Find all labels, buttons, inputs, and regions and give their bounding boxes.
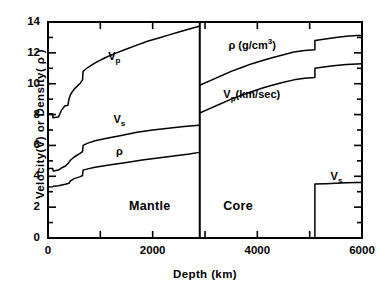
curve-vs-inner-core [315, 182, 362, 238]
x-tick-label: 0 [28, 244, 68, 256]
y-tick-label: 6 [18, 138, 40, 150]
curve-vp-mantle [48, 26, 199, 117]
vs-mantle-label: Vs [113, 113, 125, 128]
y-tick-label: 4 [18, 169, 40, 181]
y-tick-label: 8 [18, 108, 40, 120]
core-region-label: Core [223, 199, 253, 213]
data-curves [48, 26, 362, 238]
y-tick-label: 2 [18, 200, 40, 212]
seismic-velocity-density-figure: Velocity(V) or Density( ρ ) Depth (km) 0… [0, 0, 379, 288]
rho-core-label: ρ (g/cm3) [229, 37, 276, 51]
rho-mantle-label: ρ [116, 145, 123, 157]
curve-rho-mantle [48, 152, 199, 187]
y-tick-label: 0 [18, 231, 40, 243]
curve-rho-core [200, 35, 362, 85]
x-tick-label: 6000 [342, 244, 379, 256]
y-tick-label: 10 [18, 77, 40, 89]
x-tick-label: 2000 [133, 244, 173, 256]
x-axis-title: Depth (km) [125, 268, 285, 280]
vp-core-label: Vp(km/sec) [223, 88, 280, 103]
vs-core-label: Vs [331, 170, 343, 185]
vp-mantle-label: Vp [108, 50, 120, 65]
mantle-region-label: Mantle [129, 199, 170, 213]
curve-vs-mantle [48, 125, 199, 171]
y-tick-label: 12 [18, 46, 40, 58]
y-tick-label: 14 [18, 15, 40, 27]
x-tick-label: 4000 [237, 244, 277, 256]
